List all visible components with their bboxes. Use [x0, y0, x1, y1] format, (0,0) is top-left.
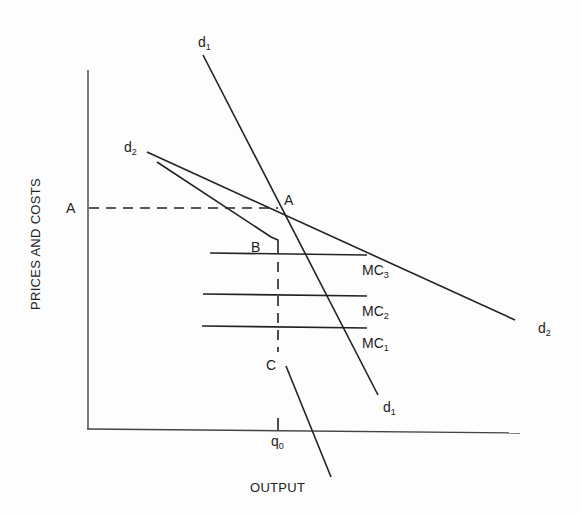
y-axis-title: PRICES AND COSTS	[28, 178, 43, 310]
mc3-line	[210, 253, 367, 255]
d1-demand-curve	[203, 55, 378, 395]
mc2-label: MC2	[362, 303, 389, 321]
d2-top-label: d2	[124, 139, 137, 157]
d1-bottom-label: d1	[383, 399, 396, 417]
x-axis-title: OUTPUT	[250, 480, 305, 495]
point-c-label: C	[266, 357, 276, 373]
mc1-label: MC1	[362, 335, 389, 353]
q0-label: q0	[271, 433, 284, 451]
price-level-label: A	[66, 200, 76, 216]
d2-bottom-label: d2	[538, 320, 551, 338]
x-axis	[87, 429, 520, 433]
marginal-revenue-lower-segment	[286, 366, 331, 477]
d1-top-label: d1	[198, 34, 211, 52]
kinked-demand-diagram: PRICES AND COSTS A d1 d1 d2 d2 B A MC3 M…	[0, 0, 582, 514]
point-b-label: B	[251, 239, 260, 255]
mc3-label: MC3	[362, 262, 389, 280]
mc2-line	[203, 294, 367, 296]
point-a-label: A	[284, 192, 294, 208]
